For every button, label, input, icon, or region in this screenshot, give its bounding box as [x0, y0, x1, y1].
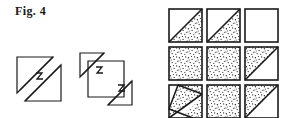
- grid-cell-r3c3: [245, 85, 278, 118]
- cut-shapes-group: .ln { fill: none; stroke: #1a1a1a; strok…: [0, 44, 150, 118]
- shape-b-square-three-piece: [80, 53, 132, 105]
- shape-b-zigzag-notch-upper: [96, 67, 103, 73]
- grid-cell-r3c2: [207, 85, 240, 118]
- shape-a-cut-line-lower: [25, 65, 61, 101]
- cell-fill-full: [169, 47, 202, 80]
- grid-cell-r1c2: [207, 9, 240, 42]
- grid-cell-r1c3: [245, 9, 278, 42]
- cut-shapes-svg: .ln { fill: none; stroke: #1a1a1a; strok…: [0, 44, 150, 118]
- pattern-grid: .cellbox { fill: none; stroke: #1a1a1a; …: [164, 4, 294, 118]
- cell-border: [245, 9, 278, 42]
- grid-cell-r3c1: [169, 85, 202, 118]
- cell-fill-full: [207, 47, 240, 80]
- grid-cell-r2c2: [207, 47, 240, 80]
- shape-b-cut-line-upper: [82, 53, 104, 75]
- shape-a-square-two-piece: [17, 57, 61, 101]
- grid-cell-r1c1: [169, 9, 202, 42]
- pattern-grid-svg: .cellbox { fill: none; stroke: #1a1a1a; …: [164, 4, 294, 118]
- grid-cell-r2c1: [169, 47, 202, 80]
- figure-label: Fig. 4: [15, 4, 46, 19]
- shape-a-zigzag-notch: [36, 73, 43, 79]
- grid-cell-r2c3: [245, 47, 278, 80]
- figure-container: Fig. 4 .ln { fill: none; stroke: #1a1a1a…: [0, 0, 294, 118]
- cell-fill-full: [207, 85, 240, 118]
